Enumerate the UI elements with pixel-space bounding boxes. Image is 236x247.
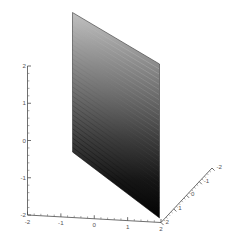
- surface-mesh: [73, 13, 160, 219]
- z-lab-tick-text: 1: [23, 99, 27, 106]
- y-axis-tick-labels: 210-1-2: [166, 163, 223, 225]
- z-lab-tick-text: 0: [23, 137, 27, 144]
- y-lab-tick-text: 1: [178, 204, 182, 211]
- z-axis: 210-1-2: [20, 62, 31, 218]
- y-lab-tick-text: -2: [217, 163, 223, 170]
- z-axis-ticks: [28, 66, 32, 215]
- x-axis-tick-labels: -2-1012: [25, 218, 164, 233]
- surface-plot-figure: 210-1-2 -2-1012 210-1-2: [0, 0, 236, 247]
- z-axis-tick-labels: 210-1-2: [20, 62, 26, 218]
- x-lab-tick-text: 2: [159, 225, 163, 232]
- y-lab-tick-text: 2: [166, 218, 170, 225]
- x-lab-tick-text: -1: [58, 219, 64, 226]
- y-lab-tick-text: 0: [191, 190, 195, 197]
- x-axis: -2-1012: [25, 212, 164, 233]
- z-lab-tick-text: 2: [23, 62, 27, 69]
- plot-canvas: 210-1-2 -2-1012 210-1-2: [0, 0, 236, 247]
- y-lab-tick-text: -1: [204, 177, 210, 184]
- x-lab-tick-text: -2: [25, 218, 31, 225]
- z-lab-tick-text: -1: [20, 174, 26, 181]
- x-lab-tick-text: 1: [126, 223, 130, 230]
- x-lab-tick-text: 0: [93, 221, 97, 228]
- y-axis: 210-1-2: [161, 163, 223, 225]
